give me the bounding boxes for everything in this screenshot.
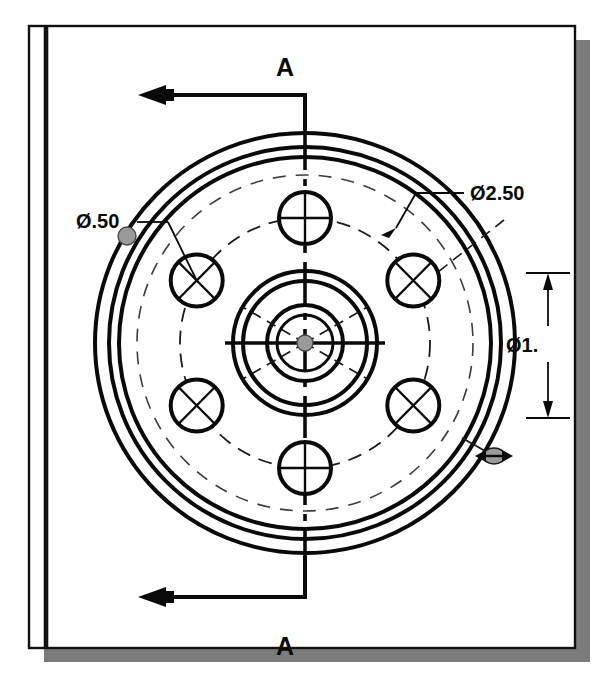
bolt-hole-top	[279, 192, 331, 244]
hole-diameter-marker-dot[interactable]	[118, 227, 136, 245]
center-point-marker[interactable]	[297, 335, 313, 351]
section-letter-top: A	[276, 53, 294, 81]
bolt-hole-bottom	[279, 442, 331, 494]
technical-drawing-svg: A A Ø.50 Ø2.50	[0, 0, 610, 683]
bolt-hole-upper-right	[387, 255, 439, 307]
section-letter-bottom: A	[276, 632, 294, 660]
center-bore-label: Ø1.	[506, 334, 538, 356]
drawing-canvas: A A Ø.50 Ø2.50	[0, 0, 610, 683]
bolt-hole-lower-left	[171, 380, 223, 432]
bolt-hole-lower-right	[387, 380, 439, 432]
bolt-circle-label: Ø2.50	[470, 182, 524, 204]
hole-diameter-label: Ø.50	[76, 210, 119, 232]
